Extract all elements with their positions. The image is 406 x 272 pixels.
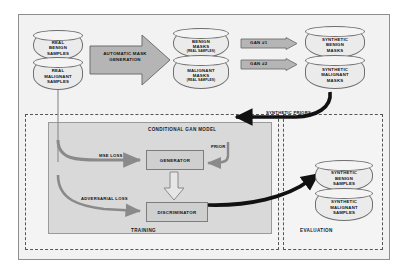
cylinder-top-ellipse (315, 160, 373, 171)
cylinder-top-ellipse (33, 30, 83, 41)
cylinder-top-ellipse (305, 26, 365, 37)
datastore-synthetic-benign-masks: SYNTHETIC BENIGN MASKS (305, 26, 365, 58)
datastore-synthetic-malignant-masks-line3: MASKS (327, 78, 344, 83)
datastore-synthetic-malignant-samples-line3: SAMPLES (333, 210, 355, 215)
automatic-mask-generation-line2: GENERATION (94, 57, 156, 63)
evaluation-label: EVALUATION (300, 228, 333, 233)
discriminator-label: DISCRIMINATOR (158, 210, 197, 215)
synthetic-priors-label: SYNTHETIC PRIORS (266, 110, 311, 115)
generator-label: GENERATOR (160, 158, 190, 163)
gan-1-label: GAN #1 (250, 40, 267, 45)
cylinder-top-ellipse (305, 55, 365, 66)
conditional-gan-model-label: CONDITIONAL GAN MODEL (148, 127, 217, 132)
diagram-canvas: CONDITIONAL GAN MODEL TRAINING EVALUATIO… (0, 0, 406, 272)
automatic-mask-generation-label: AUTOMATIC MASK GENERATION (94, 51, 156, 62)
discriminator-module-box: DISCRIMINATOR (146, 202, 208, 222)
datastore-benign-masks-sub: (REAL SAMPLES) (187, 49, 215, 53)
adversarial-loss-label: ADVERSARIAL LOSS (81, 196, 128, 201)
datastore-synthetic-malignant-masks: SYNTHETIC MALIGNANT MASKS (305, 55, 365, 89)
datastore-real-benign-samples: REAL BENIGN SAMPLES (33, 30, 83, 60)
datastore-synthetic-benign-samples: SYNTHETIC BENIGN SAMPLES (315, 160, 373, 191)
gan-1-arrow (240, 36, 298, 49)
cylinder-top-ellipse (173, 55, 229, 66)
mse-loss-label: MSE LOSS (99, 153, 123, 158)
datastore-benign-masks: BENIGN MASKS (REAL SAMPLES) (173, 28, 229, 58)
datastore-synthetic-malignant-samples: SYNTHETIC MALIGNANT SAMPLES (315, 188, 373, 221)
cylinder-top-ellipse (315, 188, 373, 199)
cylinder-top-ellipse (33, 57, 83, 68)
datastore-malignant-masks: MALIGNANT MASKS (REAL SAMPLES) (173, 55, 229, 89)
gan-2-label: GAN #2 (250, 61, 267, 66)
cylinder-top-ellipse (173, 28, 229, 39)
datastore-synthetic-benign-masks-line3: MASKS (327, 48, 344, 53)
datastore-real-malignant-line3: SAMPLES (47, 79, 69, 84)
datastore-synthetic-benign-samples-line3: SAMPLES (333, 181, 355, 186)
datastore-real-benign-line3: SAMPLES (47, 51, 69, 56)
datastore-malignant-masks-sub: (REAL SAMPLES) (187, 78, 215, 82)
datastore-real-malignant-samples: REAL MALIGNANT SAMPLES (33, 57, 83, 90)
prior-label: PRIOR (211, 144, 226, 149)
automatic-mask-generation-line1: AUTOMATIC MASK (94, 51, 156, 57)
gan-2-arrow (240, 57, 298, 70)
training-label: TRAINING (131, 228, 156, 233)
generator-module-box: GENERATOR (146, 150, 204, 170)
